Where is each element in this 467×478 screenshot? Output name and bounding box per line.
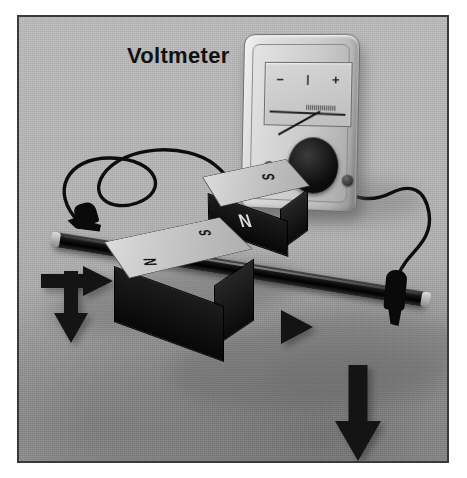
magnet-front-face-pole: N: [141, 258, 160, 266]
clip-left[interactable]: [67, 203, 107, 237]
photograph-plate: − | +: [17, 15, 449, 463]
clip-right-jaw: [387, 300, 403, 326]
meter-fine-print: [306, 105, 336, 111]
arrow-bottom-down: [331, 365, 385, 461]
arrow-mid-right: [281, 310, 313, 344]
figure-container: − | +: [0, 0, 467, 478]
magnet-front-top-pole: S: [196, 230, 215, 237]
meter-scale-marks: − | +: [265, 69, 351, 90]
meter-scale-baseline: [270, 110, 346, 115]
magnet-front-front: [114, 266, 224, 362]
clip-right[interactable]: [381, 270, 415, 328]
magnet-front[interactable]: S N: [104, 242, 279, 382]
meter-center-mark: |: [306, 74, 309, 85]
meter-scale-face: − | +: [264, 62, 353, 127]
meter-needle: [278, 110, 321, 135]
magnet-rear-face-pole: N: [236, 212, 253, 230]
magnet-rear-top-pole: S: [260, 174, 278, 181]
arrow-left-down: [51, 271, 91, 343]
meter-plus-mark: +: [332, 73, 340, 86]
page-title: Voltmeter: [127, 43, 230, 69]
meter-minus-mark: −: [276, 72, 284, 85]
right-terminal[interactable]: [342, 175, 353, 187]
